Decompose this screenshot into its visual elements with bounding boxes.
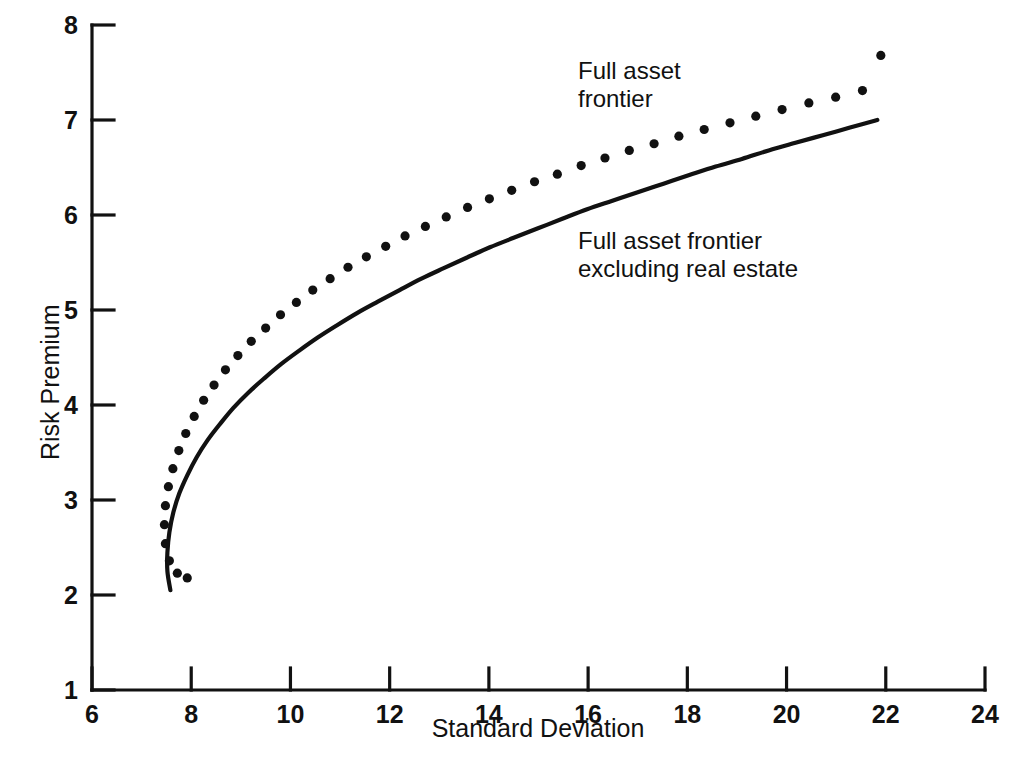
data-point <box>190 412 199 421</box>
annotation-line: excluding real estate <box>578 255 798 283</box>
y-axis-ticks <box>92 25 114 690</box>
data-point <box>485 194 494 203</box>
x-axis-tick-label: 6 <box>85 700 99 729</box>
x-axis-tick-label: 20 <box>773 700 801 729</box>
annotation-full-asset-frontier: Full assetfrontier <box>578 57 681 114</box>
y-axis-tick-label: 1 <box>18 676 78 705</box>
data-point <box>600 153 609 162</box>
data-point <box>400 231 409 240</box>
x-axis-title: Standard Deviation <box>432 714 645 743</box>
data-point <box>165 556 174 565</box>
x-axis-ticks <box>92 668 985 690</box>
annotation-line: Full asset frontier <box>578 227 798 255</box>
data-point <box>442 212 451 221</box>
data-point <box>161 539 170 548</box>
data-point <box>858 86 867 95</box>
axes-spines <box>92 25 985 690</box>
data-point <box>804 98 813 107</box>
data-point <box>831 93 840 102</box>
data-point <box>168 464 177 473</box>
data-point <box>674 132 683 141</box>
x-axis-tick-label: 22 <box>872 700 900 729</box>
y-axis-tick-label: 3 <box>18 486 78 515</box>
x-axis-tick-label: 10 <box>277 700 305 729</box>
y-axis-tick-label: 2 <box>18 581 78 610</box>
data-point <box>421 222 430 231</box>
data-point <box>725 118 734 127</box>
data-point <box>174 446 183 455</box>
data-point <box>261 323 270 332</box>
data-point <box>292 298 301 307</box>
y-axis-title: Risk Premium <box>36 304 65 460</box>
data-point <box>343 263 352 272</box>
data-point <box>625 146 634 155</box>
data-point <box>173 569 182 578</box>
data-point <box>160 520 169 529</box>
data-point <box>308 285 317 294</box>
data-point <box>247 337 256 346</box>
data-point <box>751 112 760 121</box>
data-point <box>164 482 173 491</box>
chart-figure: 681012141618202224 12345678 Standard Dev… <box>0 0 1016 763</box>
data-point <box>700 125 709 134</box>
data-point <box>221 365 230 374</box>
x-axis-tick-label: 12 <box>376 700 404 729</box>
data-point <box>381 242 390 251</box>
x-axis-tick-label: 24 <box>971 700 999 729</box>
series-dots-full-asset-frontier <box>160 51 886 583</box>
data-point <box>649 139 658 148</box>
data-point <box>876 51 885 60</box>
data-point <box>181 429 190 438</box>
data-point <box>530 177 539 186</box>
x-axis-tick-label: 8 <box>184 700 198 729</box>
y-axis-tick-label: 8 <box>18 11 78 40</box>
data-point <box>199 396 208 405</box>
x-axis-tick-label: 18 <box>673 700 701 729</box>
annotation-line: frontier <box>578 85 681 113</box>
chart-plot-area <box>0 0 1016 763</box>
data-point <box>463 203 472 212</box>
data-point <box>507 186 516 195</box>
data-point <box>209 380 218 389</box>
data-point <box>183 573 192 582</box>
data-point <box>233 351 242 360</box>
annotation-line: Full asset <box>578 57 681 85</box>
data-point <box>326 274 335 283</box>
y-axis-tick-label: 7 <box>18 106 78 135</box>
y-axis-tick-label: 6 <box>18 201 78 230</box>
data-point <box>276 310 285 319</box>
data-point <box>777 105 786 114</box>
annotation-excluding-real-estate: Full asset frontierexcluding real estate <box>578 227 798 284</box>
series-line-excluding-real-estate <box>167 120 877 590</box>
data-point <box>362 252 371 261</box>
data-point <box>161 501 170 510</box>
data-point <box>577 161 586 170</box>
data-point <box>553 170 562 179</box>
